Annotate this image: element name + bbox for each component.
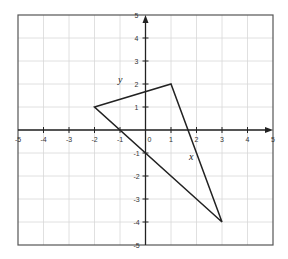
y-tick-label: -5 — [133, 242, 139, 249]
y-tick-label: -2 — [133, 173, 139, 180]
coordinate-plane: -5-4-3-2-1012345-5-4-3-2-112345 x y — [0, 0, 288, 259]
y-tick-label: -3 — [133, 196, 139, 203]
x-tick-label: -3 — [66, 136, 72, 143]
x-axis-label: x — [188, 151, 194, 162]
y-tick-label: -1 — [133, 150, 139, 157]
y-tick-label: 1 — [135, 104, 139, 111]
x-tick-label: 4 — [246, 136, 250, 143]
x-tick-label: 3 — [220, 136, 224, 143]
x-tick-label: 1 — [169, 136, 173, 143]
y-tick-label: 2 — [135, 81, 139, 88]
x-axis-arrow-icon — [265, 127, 273, 133]
x-tick-label: -2 — [91, 136, 97, 143]
y-axis-label: y — [117, 74, 123, 85]
y-tick-label: 4 — [135, 35, 139, 42]
x-tick-label: 2 — [195, 136, 199, 143]
x-tick-label: 5 — [271, 136, 275, 143]
y-tick-label: 3 — [135, 58, 139, 65]
y-tick-label: -4 — [133, 219, 139, 226]
y-axis-arrow-icon — [143, 15, 149, 23]
x-tick-label: -4 — [40, 136, 46, 143]
x-tick-label: -1 — [117, 136, 123, 143]
x-tick-label: -5 — [15, 136, 21, 143]
y-tick-label: 5 — [135, 12, 139, 19]
x-tick-label: 0 — [148, 136, 152, 143]
axes — [18, 15, 273, 245]
